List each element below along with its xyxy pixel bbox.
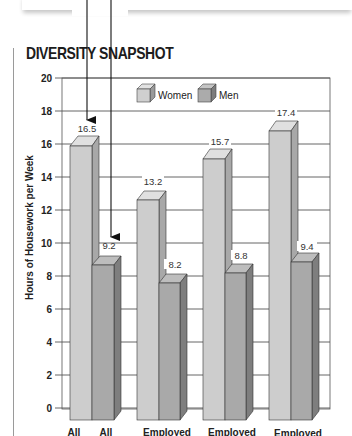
category-label-employed-2: Employed bbox=[208, 427, 256, 436]
legend-men-label: Men bbox=[219, 90, 238, 101]
legend-women-label: Women bbox=[158, 90, 192, 101]
y-tick-0: 0 bbox=[46, 403, 52, 414]
value-label-employed1-women: 13.2 bbox=[144, 176, 163, 187]
y-tick-2: 2 bbox=[46, 370, 52, 381]
category-label-all-women: All bbox=[68, 427, 81, 436]
category-labels: All All Employed Employed Employed bbox=[68, 427, 322, 436]
bar-chart: 20 18 16 14 12 10 8 6 4 2 0 Hours of Hou… bbox=[0, 0, 352, 436]
value-label-employed2-women: 15.7 bbox=[211, 136, 230, 147]
bar-men-employed-2 bbox=[225, 264, 253, 420]
category-label-all-men: All bbox=[100, 427, 113, 436]
value-label-employed3-women: 17.4 bbox=[277, 107, 296, 118]
y-tick-18: 18 bbox=[41, 106, 53, 117]
y-tick-16: 16 bbox=[41, 139, 53, 150]
y-tick-12: 12 bbox=[41, 205, 53, 216]
y-axis-label: Hours of Housework per Week bbox=[24, 155, 35, 300]
value-label-employed3-men: 9.4 bbox=[300, 241, 313, 252]
category-label-employed-3: Employed bbox=[274, 428, 322, 436]
y-tick-14: 14 bbox=[41, 172, 53, 183]
bar-men-employed-1 bbox=[159, 274, 187, 420]
y-tick-6: 6 bbox=[46, 304, 52, 315]
legend-men-swatch bbox=[198, 84, 216, 102]
value-label-all-men: 9.2 bbox=[102, 240, 115, 251]
legend-women-swatch bbox=[137, 84, 155, 102]
y-tick-20: 20 bbox=[41, 73, 53, 84]
value-label-employed1-men: 8.2 bbox=[168, 259, 181, 270]
category-label-employed-1: Employed bbox=[143, 427, 191, 436]
y-tick-10: 10 bbox=[41, 238, 53, 249]
value-label-all-women: 16.5 bbox=[78, 123, 97, 134]
y-tick-labels: 20 18 16 14 12 10 8 6 4 2 0 bbox=[41, 73, 53, 414]
y-tick-4: 4 bbox=[46, 337, 52, 348]
value-label-employed2-men: 8.8 bbox=[234, 250, 247, 261]
bar-men-all bbox=[92, 256, 121, 420]
y-tick-8: 8 bbox=[46, 271, 52, 282]
bar-men-employed-3 bbox=[291, 253, 319, 420]
